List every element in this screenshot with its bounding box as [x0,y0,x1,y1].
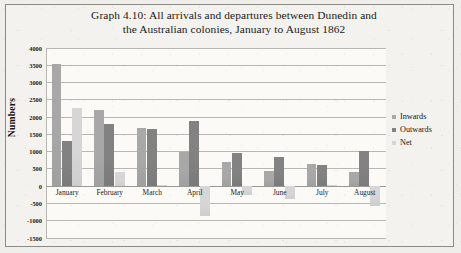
bar-net-march [157,185,167,186]
chart-title-line-1: Graph 4.10: All arrivals and departures … [34,8,434,22]
legend-swatch-inwards [392,115,396,119]
y-axis-line [46,48,47,238]
bar-inwards-january [52,64,62,186]
y-tick-label: 1000 [29,148,42,155]
chart-title-line-2: the Australian colonies, January to Augu… [34,22,434,36]
legend-label: Inwards [400,112,426,121]
y-tick-label: 3000 [29,79,42,86]
y-tick-label: -1500 [27,234,42,241]
legend-swatch-outwards [392,128,396,132]
bar-inwards-may [222,162,232,186]
y-tick-label: 0 [39,182,42,189]
bar-inwards-august [349,172,359,186]
y-tick-label: 4000 [29,44,42,51]
bar-outwards-march [147,129,157,186]
y-tick-label: 1500 [29,130,42,137]
x-axis-label-august: August [354,188,375,197]
bar-net-july [327,185,337,186]
bar-group: June [264,48,295,238]
chart-page: Graph 4.10: All arrivals and departures … [0,0,461,253]
bar-outwards-february [104,124,114,186]
bar-inwards-july [307,164,317,185]
y-tick-label: 3500 [29,61,42,68]
legend-swatch-net [392,141,396,145]
y-tick-label: -1000 [27,217,42,224]
bar-outwards-may [232,153,242,186]
bar-outwards-june [274,157,284,186]
bar-group: August [349,48,380,238]
chart-legend: InwardsOutwardsNet [392,110,456,149]
bar-net-january [72,108,82,185]
bar-inwards-march [137,128,147,185]
bar-group: March [137,48,168,238]
legend-item-inwards: Inwards [392,110,456,123]
x-axis-label-february: February [96,188,123,197]
y-tick-label: 2500 [29,96,42,103]
legend-label: Outwards [400,125,432,134]
bar-inwards-february [94,110,104,186]
bar-inwards-june [264,171,274,186]
plot-area: -1500-1000-50005001000150020002500300035… [46,48,386,238]
x-axis-label-may: May [230,188,244,197]
bar-group: July [307,48,338,238]
bar-group: January [52,48,83,238]
bar-outwards-january [62,141,72,186]
bar-outwards-july [317,165,327,186]
bar-group: February [94,48,125,238]
x-axis-label-march: March [143,188,162,197]
bar-inwards-april [179,152,189,186]
bar-outwards-april [189,121,199,186]
x-axis-label-july: July [316,188,328,197]
legend-item-outwards: Outwards [392,123,456,136]
x-axis-label-april: April [187,188,203,197]
x-axis-label-june: June [273,188,287,197]
chart-title: Graph 4.10: All arrivals and departures … [34,8,434,36]
y-axis-title: Numbers [6,88,17,148]
bar-outwards-august [359,151,369,186]
y-tick-label: -500 [30,199,42,206]
y-tick-label: 2000 [29,113,42,120]
x-axis-label-january: January [56,188,79,197]
legend-item-net: Net [392,136,456,149]
bar-net-february [115,172,125,185]
legend-label: Net [400,138,412,147]
gridline--1500 [46,238,386,239]
bar-group: May [222,48,253,238]
y-tick-label: 500 [32,165,42,172]
bar-group: April [179,48,210,238]
